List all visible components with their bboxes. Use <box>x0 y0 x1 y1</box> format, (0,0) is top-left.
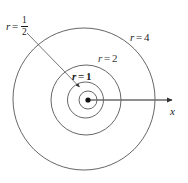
label-r-one-eq: = <box>76 70 85 82</box>
figure-canvas <box>0 0 188 183</box>
label-r-one-value: 1 <box>86 70 92 82</box>
fraction-numerator: 1 <box>21 16 28 26</box>
label-r-one: r=1 <box>72 71 92 82</box>
origin-point <box>85 97 90 102</box>
label-r-one-half: r=12 <box>6 17 28 38</box>
circle-r-4 <box>13 28 155 170</box>
fraction-denominator: 2 <box>21 27 28 37</box>
label-x-axis: x <box>170 106 175 117</box>
label-r-two-eq: = <box>102 52 111 64</box>
label-r-four-eq: = <box>134 31 143 43</box>
label-r-two-value: 2 <box>112 52 118 64</box>
label-x-axis-text: x <box>170 105 175 117</box>
label-r-two: r=2 <box>98 53 118 64</box>
label-r-four-value: 4 <box>144 31 150 43</box>
label-r-four: r=4 <box>130 32 150 43</box>
label-r-half-eq: = <box>10 20 19 32</box>
fraction-one-half: 12 <box>21 16 28 37</box>
polar-circles-figure: r=12 r=4 r=2 r=1 x <box>0 0 188 183</box>
